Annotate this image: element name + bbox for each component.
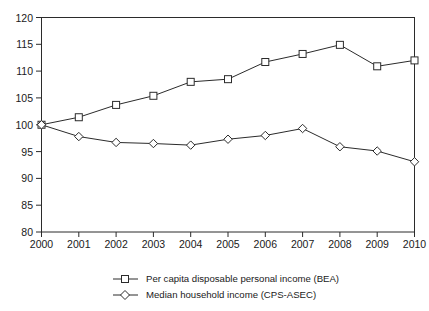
data-point-diamond — [149, 139, 157, 147]
y-axis-tick-labels: 120 115 110 105 100 95 90 85 80 — [15, 12, 33, 239]
x-tick-label: 2005 — [216, 238, 240, 250]
x-tick-label: 2003 — [142, 238, 166, 250]
x-tick-label: 2008 — [328, 238, 352, 250]
x-tick-label: 2002 — [104, 238, 128, 250]
x-tick-label: 2004 — [179, 238, 203, 250]
data-point-square — [225, 76, 232, 83]
y-tick-label: 95 — [21, 146, 33, 158]
chart-legend: Per capita disposable personal income (B… — [113, 273, 339, 300]
x-axis-tick-labels: 2000 2001 2002 2003 2004 2005 2006 2007 … — [30, 238, 427, 250]
data-point-square — [150, 92, 157, 99]
data-point-diamond — [410, 158, 418, 166]
data-series-layer — [37, 41, 418, 166]
y-tick-label: 110 — [16, 65, 33, 77]
y-tick-label: 115 — [16, 38, 33, 50]
data-point-square — [299, 50, 306, 57]
x-tick-label: 2007 — [291, 238, 315, 250]
legend-label-cps: Median household income (CPS-ASEC) — [146, 289, 316, 300]
y-tick-label: 120 — [15, 12, 33, 24]
series-line — [42, 45, 415, 125]
data-point-diamond — [261, 131, 269, 139]
y-tick-label: 100 — [15, 119, 33, 131]
series-bea — [38, 41, 418, 128]
x-tick-label: 2006 — [254, 238, 278, 250]
square-marker-icon — [122, 276, 129, 283]
y-tick-label: 90 — [21, 172, 33, 184]
y-tick-label: 105 — [15, 92, 33, 104]
legend-entry-cps: Median household income (CPS-ASEC) — [113, 289, 316, 300]
data-point-square — [187, 78, 194, 85]
x-tick-label: 2001 — [67, 238, 91, 250]
x-tick-label: 2009 — [366, 238, 390, 250]
x-axis-ticks — [42, 232, 415, 237]
chart-figure: 120 115 110 105 100 95 90 85 80 2000 — [0, 0, 429, 311]
y-tick-label: 80 — [21, 226, 33, 238]
data-point-square — [411, 57, 418, 64]
data-point-diamond — [224, 135, 232, 143]
diamond-marker-icon — [121, 291, 130, 300]
data-point-square — [336, 41, 343, 48]
data-point-square — [262, 59, 269, 66]
legend-entry-bea: Per capita disposable personal income (B… — [113, 273, 339, 284]
x-tick-label: 2000 — [30, 238, 54, 250]
data-point-square — [374, 63, 381, 70]
legend-label-bea: Per capita disposable personal income (B… — [146, 273, 339, 284]
plot-area-frame — [42, 18, 415, 233]
data-point-diamond — [75, 132, 83, 140]
series-cps — [37, 121, 418, 166]
x-tick-label: 2010 — [403, 238, 427, 250]
data-point-square — [113, 101, 120, 108]
data-point-diamond — [373, 147, 381, 155]
y-tick-label: 85 — [21, 199, 33, 211]
data-point-diamond — [336, 143, 344, 151]
data-point-square — [75, 114, 82, 121]
data-point-diamond — [187, 141, 195, 149]
data-point-diamond — [112, 138, 120, 146]
data-point-diamond — [298, 124, 306, 132]
line-chart-svg: 120 115 110 105 100 95 90 85 80 2000 — [0, 0, 429, 311]
